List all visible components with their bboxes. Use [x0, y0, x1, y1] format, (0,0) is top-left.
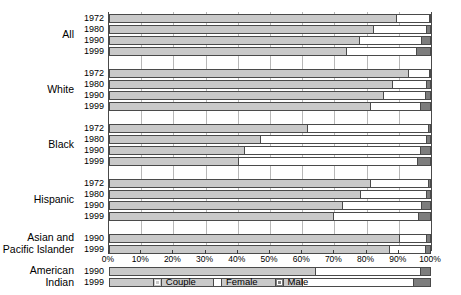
bar-segment-male — [428, 124, 431, 133]
bar-segment-couple — [109, 135, 260, 144]
bar-segment-female — [346, 47, 417, 56]
table-row — [109, 234, 431, 243]
bar-segment-couple — [109, 146, 244, 155]
year-label: 1980 — [76, 80, 104, 89]
bar-segment-male — [426, 234, 431, 243]
year-label: 1990 — [76, 234, 104, 243]
year-label: 1999 — [76, 47, 104, 56]
year-label: 1972 — [76, 69, 104, 78]
bar-segment-male — [416, 47, 430, 56]
bar-segment-female — [238, 157, 417, 166]
year-label: 1999 — [76, 212, 104, 221]
bar-segment-couple — [109, 102, 370, 111]
bar-segment-female — [396, 14, 429, 23]
group-label-column: AllWhiteBlackHispanicAsian and Pacific I… — [0, 0, 74, 250]
year-label: 1999 — [76, 245, 104, 254]
bar-segment-male — [429, 14, 431, 23]
year-label: 1990 — [76, 91, 104, 100]
bar-segment-couple — [109, 80, 392, 89]
table-row — [109, 14, 431, 23]
bar-segment-male — [421, 201, 431, 210]
bar-segment-couple — [109, 212, 333, 221]
bar-segment-male — [426, 190, 431, 199]
table-row — [109, 212, 431, 221]
x-axis-tick-label: 70% — [325, 255, 342, 264]
x-axis-tick-label: 90% — [389, 255, 406, 264]
x-axis-tick-label: 80% — [357, 255, 374, 264]
bar-segment-female — [383, 91, 425, 100]
table-row — [109, 47, 431, 56]
legend-item-couple: Couple — [153, 277, 196, 287]
year-label: 1990 — [76, 146, 104, 155]
legend-swatch-male-icon — [275, 278, 284, 287]
x-axis-tick-label: 30% — [196, 255, 213, 264]
year-label: 1980 — [76, 135, 104, 144]
bar-segment-male — [420, 102, 431, 111]
year-label: 1980 — [76, 25, 104, 34]
bar-segment-male — [420, 146, 431, 155]
bar-segment-couple — [109, 201, 342, 210]
x-axis: 0%10%20%30%40%50%60%70%80%90%100% — [108, 250, 432, 270]
year-label-column: 1972198019901999197219801990199919721980… — [76, 0, 106, 250]
legend-label: Male — [288, 277, 309, 287]
group-label: White — [0, 84, 74, 96]
table-row — [109, 91, 431, 100]
bar-segment-couple — [109, 124, 307, 133]
bar-segment-female — [333, 212, 418, 221]
legend-swatch-female-icon — [213, 278, 222, 287]
table-row — [109, 69, 431, 78]
year-label: 1972 — [76, 179, 104, 188]
bar-segment-female — [399, 234, 426, 243]
bar-segment-female — [260, 135, 426, 144]
bar-segment-female — [408, 69, 429, 78]
bar-segment-male — [426, 135, 431, 144]
year-label: 1990 — [76, 36, 104, 45]
bar-segment-couple — [109, 179, 370, 188]
table-row — [109, 146, 431, 155]
plot-inner — [109, 12, 431, 250]
bar-segment-male — [426, 80, 431, 89]
table-row — [109, 201, 431, 210]
group-label: Black — [0, 139, 74, 151]
table-row — [109, 80, 431, 89]
year-label: 1999 — [76, 102, 104, 111]
table-row — [109, 102, 431, 111]
table-row — [109, 36, 431, 45]
group-label: All — [0, 29, 74, 41]
stacked-bar-chart: AllWhiteBlackHispanicAsian and Pacific I… — [0, 0, 461, 295]
table-row — [109, 157, 431, 166]
table-row — [109, 179, 431, 188]
bar-segment-couple — [109, 190, 360, 199]
bar-segment-female — [244, 146, 419, 155]
bar-segment-female — [370, 179, 428, 188]
bar-segment-couple — [109, 234, 399, 243]
bar-segment-couple — [109, 47, 346, 56]
x-axis-tick-label: 10% — [132, 255, 149, 264]
bar-segment-male — [418, 212, 431, 221]
bar-segment-couple — [109, 14, 396, 23]
bar-segment-couple — [109, 36, 359, 45]
legend-swatch-couple-icon — [153, 278, 162, 287]
bar-segment-male — [428, 179, 431, 188]
bar-segment-female — [370, 102, 420, 111]
legend-item-female: Female — [213, 277, 258, 287]
x-axis-tick-label: 0% — [102, 255, 114, 264]
bar-segment-male — [429, 69, 431, 78]
group-label: Hispanic — [0, 194, 74, 206]
bar-segment-male — [417, 157, 431, 166]
legend-label: Couple — [166, 277, 196, 287]
year-label: 1972 — [76, 124, 104, 133]
x-axis-tick-label: 50% — [260, 255, 277, 264]
bar-segment-female — [342, 201, 421, 210]
x-axis-tick-label: 40% — [228, 255, 245, 264]
table-row — [109, 25, 431, 34]
legend-item-male: Male — [275, 277, 309, 287]
x-axis-tick-label: 100% — [419, 255, 441, 264]
bar-segment-male — [421, 36, 431, 45]
bar-segment-male — [426, 25, 431, 34]
table-row — [109, 135, 431, 144]
year-label: 1990 — [76, 201, 104, 210]
year-label: 1972 — [76, 14, 104, 23]
legend-label: Female — [226, 277, 258, 287]
bar-segment-female — [360, 190, 426, 199]
